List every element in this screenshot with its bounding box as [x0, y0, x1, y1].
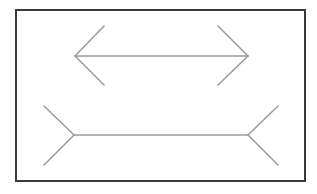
fin-line	[248, 106, 278, 135]
fin-line	[75, 56, 104, 85]
fin-line	[44, 106, 74, 135]
fin-line	[75, 26, 104, 56]
figure-arrowheads-inward	[75, 26, 248, 85]
fin-line	[44, 135, 74, 165]
muller-lyer-diagram	[0, 0, 317, 194]
fin-line	[218, 56, 248, 85]
diagram-frame	[16, 10, 305, 181]
fin-line	[218, 26, 248, 56]
figure-arrowheads-outward	[44, 106, 278, 165]
fin-line	[248, 135, 278, 165]
